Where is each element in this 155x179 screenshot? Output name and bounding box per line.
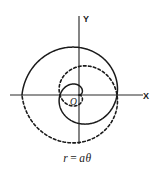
- caption-rhs: aθ: [79, 152, 91, 164]
- origin-label: O: [70, 97, 77, 107]
- spiral-figure: Y X O r=aθ: [0, 0, 155, 179]
- x-axis-label: X: [143, 91, 149, 101]
- figure-caption: r=aθ: [0, 152, 155, 164]
- caption-operator: =: [68, 152, 79, 164]
- spiral-curve-solid: [22, 47, 118, 124]
- y-axis-label: Y: [83, 14, 89, 24]
